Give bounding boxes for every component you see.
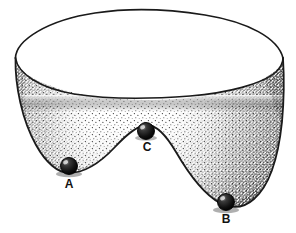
figure-canvas: A C B — [0, 0, 296, 233]
ball-a-label: A — [65, 177, 74, 191]
ball-a-sphere — [61, 158, 78, 175]
ball-b-sphere — [218, 194, 235, 211]
ball-b-label: B — [222, 212, 231, 226]
ball-c-label: C — [143, 140, 152, 154]
bowl-illustration: A C B — [0, 0, 296, 233]
ball-c-sphere — [138, 123, 155, 140]
